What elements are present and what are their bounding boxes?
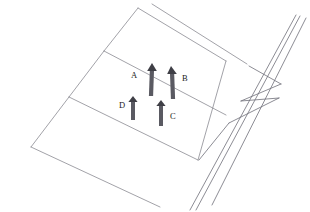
marker-label-d: D (119, 101, 125, 110)
top-back-edge (152, 4, 247, 64)
marker-shaft (131, 99, 135, 120)
figure-canvas: A B C D (0, 0, 310, 212)
marker-arrowhead (156, 100, 165, 106)
right-inner-rail (198, 61, 226, 160)
left-outer-edge-lower (69, 51, 104, 97)
barrier-rail-outer (212, 18, 306, 205)
marker-shaft (149, 68, 154, 96)
marker-label-b: B (182, 74, 188, 83)
marker-shaft (159, 103, 163, 126)
bottom-front-edge (31, 147, 160, 207)
marker-arrowhead (147, 63, 157, 71)
marker-arrow-a (147, 63, 157, 96)
marker-arrowhead (167, 66, 177, 74)
guardrail-barrier-lines (190, 15, 306, 210)
marker-arrow-c (156, 100, 165, 126)
road-surface-lines (31, 4, 247, 207)
top-front-edge (138, 8, 226, 61)
left-outer-edge-upper (104, 8, 138, 51)
marker-arrowhead (128, 96, 137, 102)
marker-arrow-d (128, 96, 137, 120)
marker-label-c: C (170, 112, 176, 121)
barrier-rail-inner (190, 15, 296, 210)
marker-arrow-b (167, 66, 177, 99)
perspective-road-drawing (0, 0, 310, 212)
marker-label-a: A (131, 71, 137, 80)
marker-shaft (170, 71, 175, 99)
left-outer-edge-foot (31, 97, 69, 147)
